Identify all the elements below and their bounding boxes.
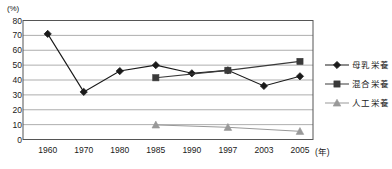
legend-item-1: 母乳栄養	[325, 60, 389, 70]
x-axis-unit-label: (年)	[315, 145, 330, 157]
legend-label: 人工栄養	[352, 99, 389, 108]
legend-marker-square-icon	[325, 79, 349, 89]
x-axis-tick-label: 1960	[38, 145, 57, 155]
legend-label: 混合栄養	[352, 80, 389, 89]
legend-item-3: 人工栄養	[325, 98, 389, 108]
series-3	[152, 121, 304, 134]
gridlines	[23, 35, 313, 124]
legend-marker-diamond-icon	[325, 60, 349, 70]
legend-marker-triangle-icon	[325, 98, 349, 108]
x-axis-tick-label: 1980	[110, 145, 129, 155]
x-axis-tick-label: 1985	[146, 145, 165, 155]
legend-item-2: 混合栄養	[325, 79, 389, 89]
x-axis-tick-label: 2003	[254, 145, 273, 155]
legend-label: 母乳栄養	[352, 61, 389, 70]
line-chart: (%) 01020304050607080 196019701980198519…	[0, 0, 392, 169]
x-axis-tick-label: 1997	[218, 145, 237, 155]
x-axis-tick-label: 1990	[182, 145, 201, 155]
series-1	[44, 30, 303, 95]
x-axis-tick-label: 2005	[290, 145, 309, 155]
x-axis-tick-label: 1970	[74, 145, 93, 155]
